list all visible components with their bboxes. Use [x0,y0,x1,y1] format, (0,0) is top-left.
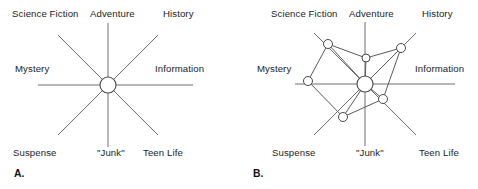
panel-b: Science Fiction Adventure History Myster… [239,0,478,189]
edge-teenlife-history [383,48,401,99]
panel-b-canvas [239,0,478,189]
edge-sf-adventure [328,44,366,58]
axis-label-history: History [163,9,194,19]
panel-a-canvas [0,0,239,189]
figure-root: Science Fiction Adventure History Myster… [0,0,478,189]
edge-sf-mystery [308,44,328,81]
node-history [397,44,406,53]
axis-label-science-fiction: Science Fiction [271,9,338,19]
panel-a: Science Fiction Adventure History Myster… [0,0,239,189]
axis-history [108,35,158,85]
axis-teen-life [365,84,416,135]
node-hub [357,76,373,92]
node-adventure [362,54,370,62]
panel-a-caption: A. [14,168,24,179]
axis-suspense [58,85,108,135]
axis-label-adventure: Adventure [349,9,394,19]
axis-label-mystery: Mystery [15,64,49,74]
axis-label-junk: "Junk" [356,148,384,158]
node-teen-life [379,95,388,104]
axis-label-history: History [422,9,453,19]
node-mystery [304,77,313,86]
axis-suspense [314,84,365,135]
panel-b-axes [295,22,455,146]
axis-label-suspense: Suspense [13,148,56,158]
node-junk [339,113,348,122]
axis-label-adventure: Adventure [90,9,135,19]
axis-label-junk: "Junk" [97,148,125,158]
axis-label-teen-life: Teen Life [419,148,459,158]
axis-label-information: Information [415,64,464,74]
axis-label-teen-life: Teen Life [143,148,183,158]
axis-science-fiction [58,35,108,85]
axis-label-mystery: Mystery [257,64,291,74]
axis-teen-life [108,85,158,135]
panel-b-caption: B. [253,168,263,179]
axis-label-suspense: Suspense [272,148,315,158]
edge-mystery-junk [308,81,343,117]
node-hub [100,77,116,93]
axis-label-science-fiction: Science Fiction [12,9,79,19]
node-science-fiction [324,40,333,49]
axis-label-information: Information [155,64,204,74]
